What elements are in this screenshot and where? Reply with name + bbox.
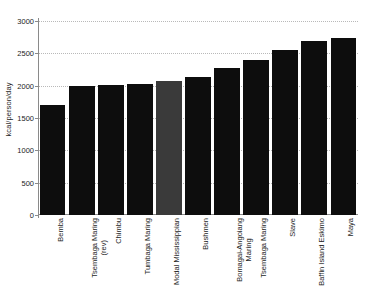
- y-tick-label: 2000: [17, 81, 34, 90]
- y-tick-label: 3000: [17, 17, 34, 26]
- y-tick-label: 0: [30, 211, 34, 220]
- bar: [69, 86, 95, 215]
- y-axis-tick-labels: 050010001500200025003000: [14, 0, 38, 218]
- y-tick-label: 2500: [17, 49, 34, 58]
- bar: [301, 41, 327, 215]
- y-tick-label: 1000: [17, 146, 34, 155]
- bar: [331, 38, 357, 215]
- x-axis-tick-labels: BembaTsembaga Maring (rev)ChimbuTumbaga …: [38, 216, 358, 303]
- bar-chart: kcal/person/day 050010001500200025003000…: [0, 0, 366, 303]
- bar: [156, 81, 182, 215]
- y-tick-label: 1500: [17, 114, 34, 123]
- plot-area: [38, 21, 358, 215]
- bar: [214, 68, 240, 215]
- bar: [185, 77, 211, 215]
- y-tick-label: 500: [21, 178, 34, 187]
- bars-series: [38, 21, 358, 215]
- bar: [127, 84, 153, 215]
- bar: [272, 50, 298, 215]
- bar: [40, 105, 66, 215]
- y-axis-title-text: kcal/person/day: [4, 82, 13, 136]
- bar: [98, 85, 124, 215]
- bar: [243, 60, 269, 215]
